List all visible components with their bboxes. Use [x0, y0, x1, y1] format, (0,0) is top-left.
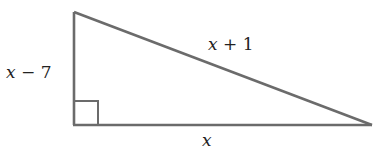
hypotenuse-label: x + 1: [208, 34, 253, 54]
triangle: [73, 12, 372, 125]
hypotenuse-label-var: x: [208, 34, 218, 54]
right-angle-marker: [74, 101, 98, 125]
hypotenuse-label-rest: + 1: [218, 34, 254, 54]
hypotenuse: [74, 12, 372, 125]
horizontal-leg-label: x: [202, 130, 212, 150]
vertical-leg-label-var: x: [6, 62, 16, 82]
horizontal-leg-label-var: x: [202, 130, 212, 150]
vertical-leg-label: x − 7: [6, 62, 51, 82]
right-triangle-diagram: x − 7 x + 1 x: [0, 0, 390, 153]
vertical-leg-label-rest: − 7: [16, 62, 52, 82]
